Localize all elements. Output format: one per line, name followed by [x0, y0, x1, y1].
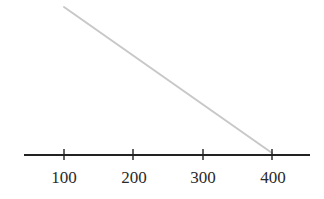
chart: 100 200 300 400	[0, 0, 324, 199]
x-tick-label-300: 300	[190, 168, 216, 187]
data-line	[64, 7, 272, 153]
x-tick-label-200: 200	[121, 168, 147, 187]
x-tick-label-100: 100	[51, 168, 77, 187]
x-tick-label-400: 400	[260, 168, 286, 187]
